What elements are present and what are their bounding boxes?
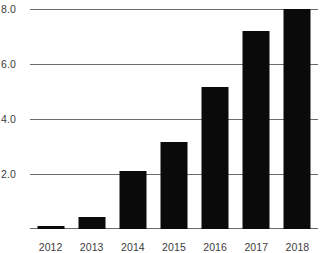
x-tick-label-2018: 2018 [286, 241, 310, 253]
plot-area: 8.0 6.0 4.0 2.0 [30, 9, 318, 229]
x-tick-label-2015: 2015 [162, 241, 186, 253]
y-tick-label-4: 4.0 [0, 113, 16, 125]
x-tick-label-2017: 2017 [244, 241, 268, 253]
x-tick-label-2016: 2016 [203, 241, 227, 253]
bar-2018 [284, 9, 311, 229]
y-tick-label-8: 8.0 [0, 3, 16, 15]
y-tick-label-6: 6.0 [0, 58, 16, 70]
x-tick-label-2014: 2014 [121, 241, 145, 253]
bar-2016 [202, 87, 229, 229]
bar-2013 [78, 217, 105, 229]
bar-chart: 8.0 6.0 4.0 2.0 [0, 0, 328, 253]
bar-2017 [243, 31, 270, 229]
bar-slot-2013 [71, 9, 112, 229]
bar-slot-2017 [236, 9, 277, 229]
bar-slot-2015 [153, 9, 194, 229]
x-tick-label-2013: 2013 [80, 241, 104, 253]
bar-2015 [160, 142, 187, 229]
bar-2014 [119, 171, 146, 229]
bar-2012 [37, 226, 64, 229]
bar-series [30, 9, 318, 229]
bar-slot-2014 [112, 9, 153, 229]
bar-slot-2012 [30, 9, 71, 229]
bar-slot-2016 [195, 9, 236, 229]
y-tick-label-2: 2.0 [0, 168, 16, 180]
bar-slot-2018 [277, 9, 318, 229]
x-tick-label-2012: 2012 [39, 241, 63, 253]
